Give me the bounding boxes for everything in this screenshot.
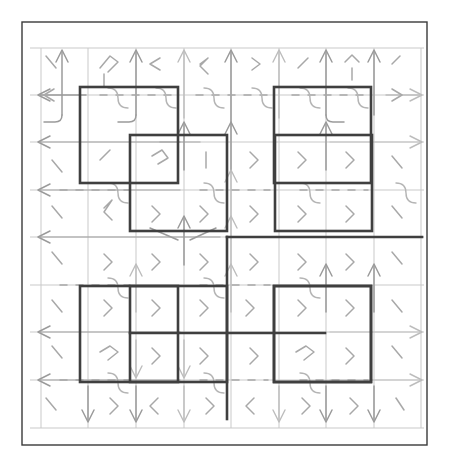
vector-field-svg [0,0,449,469]
background [0,0,449,469]
figure-canvas [0,0,449,469]
